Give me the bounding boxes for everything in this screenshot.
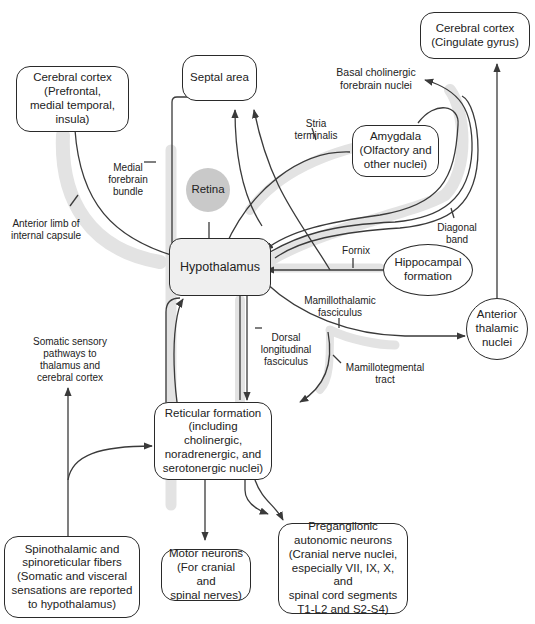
amygdala-node: Amygdala (Olfactory and other nuclei) xyxy=(352,125,439,177)
diagonal-band-label: Diagonal band xyxy=(432,222,482,246)
anterior-thalamic-nuclei-node: Anterior thalamic nuclei xyxy=(466,298,528,360)
preganglionic-neurons-node: Preganglionic autonomic neurons (Cranial… xyxy=(278,523,408,614)
fornix-label: Fornix xyxy=(336,245,376,257)
spinothalamic-fibers-node: Spinothalamic and spinoreticular fibers … xyxy=(4,536,140,618)
mamillotegmental-tract-label: Mamillotegmental tract xyxy=(340,362,430,386)
medial-forebrain-bundle-label: Medial forebrain bundle xyxy=(104,162,152,198)
anterior-limb-internal-capsule-label: Anterior limb of internal capsule xyxy=(6,218,86,242)
motor-neurons-node: Motor neurons (For cranial and spinal ne… xyxy=(161,549,251,601)
mamillothalamic-fasciculus-label: Mamillothalamic fasciculus xyxy=(300,295,380,319)
basal-cholinergic-label: Basal cholinergic forebrain nuclei xyxy=(326,66,426,91)
hippocampal-formation-node: Hippocampal formation xyxy=(383,244,473,296)
retina-node: Retina xyxy=(186,168,230,212)
somatic-sensory-pathways-label: Somatic sensory pathways to thalamus and… xyxy=(28,336,112,384)
cerebral-cortex-prefrontal-node: Cerebral cortex (Prefrontal, medial temp… xyxy=(16,66,129,132)
dorsal-longitudinal-fasciculus-label: Dorsal longitudinal fasciculus xyxy=(256,332,316,368)
cerebral-cortex-cingulate-node: Cerebral cortex (Cingulate gyrus) xyxy=(420,12,530,59)
hypothalamus-node: Hypothalamus xyxy=(169,238,271,296)
stria-terminalis-label: Stria terminalis xyxy=(286,118,346,142)
septal-area-node: Septal area xyxy=(182,55,257,101)
reticular-formation-node: Reticular formation (including cholinerg… xyxy=(154,402,272,480)
